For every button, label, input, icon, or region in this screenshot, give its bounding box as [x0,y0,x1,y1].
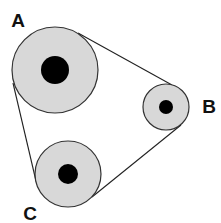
label-b: B [202,96,216,117]
pulley-c-hub [58,164,78,184]
label-a: A [11,10,25,31]
pulley-b [143,84,189,130]
belt-segment-c-b [92,125,181,197]
pulley-c [35,141,101,207]
label-c: C [23,203,37,223]
pulley-a-hub [41,56,69,84]
pulley-b-hub [159,100,173,114]
pulley-a [12,27,98,113]
belt-pulley-diagram: A B C [0,0,221,223]
